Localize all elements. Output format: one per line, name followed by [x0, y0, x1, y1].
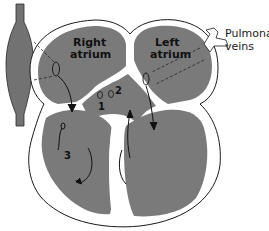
pulmonary-veins-label-2: veins — [225, 40, 254, 53]
number-3: 3 — [64, 150, 71, 161]
left-atrium-label-2: atrium — [150, 48, 191, 61]
number-1: 1 — [98, 101, 105, 112]
pulmonary-veins-label-1: Pulmonary — [225, 27, 269, 40]
right-atrium-label-2: atrium — [70, 48, 111, 61]
vena-cava — [6, 4, 33, 126]
number-2: 2 — [115, 85, 122, 96]
heart-diagram: Right atrium Left atrium Pulmonary veins… — [0, 0, 269, 231]
